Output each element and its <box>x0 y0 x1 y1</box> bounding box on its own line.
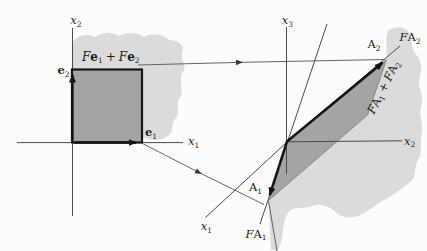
figure-canvas: x2 x1 e2 e1 Fe1+Fe2 x3 x2 x1 A2 FA2 A1 F… <box>0 0 427 251</box>
FA2-label: FA2 <box>399 30 421 46</box>
left-x1-axis-label: x1 <box>188 134 199 150</box>
right-x3-axis-label: x3 <box>282 13 294 29</box>
A1-label: A1 <box>248 180 262 196</box>
sum-image-label: Fe1+Fe2 <box>81 50 140 66</box>
right-x1-axis-label: x1 <box>201 219 212 235</box>
FA1-label: FA1 <box>244 227 266 243</box>
map-arrow-bottom <box>143 144 265 205</box>
A2-label: A2 <box>366 37 380 53</box>
left-x2-axis-label: x2 <box>70 13 82 29</box>
linear-map-diagram: x2 x1 e2 e1 Fe1+Fe2 x3 x2 x1 A2 FA2 A1 F… <box>0 0 427 251</box>
e2-label: e2 <box>57 63 69 79</box>
unit-square <box>72 70 142 143</box>
